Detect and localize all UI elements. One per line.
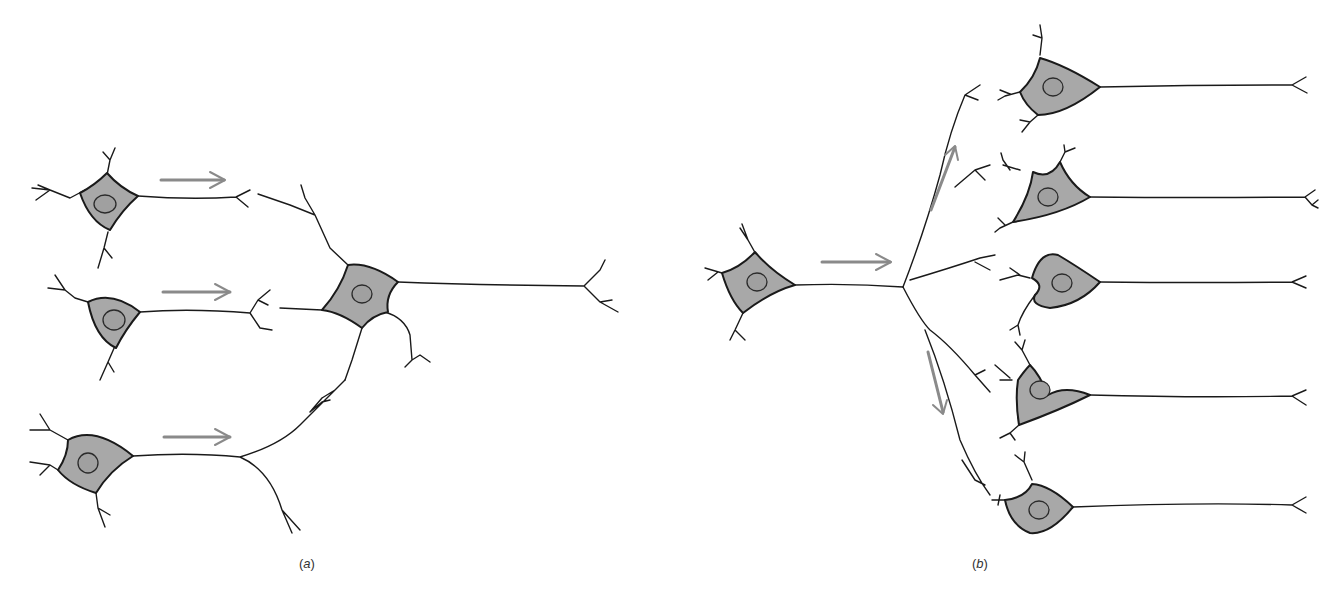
label-letter: a xyxy=(303,556,310,571)
panel-a-convergence xyxy=(30,148,618,533)
neural-circuit-diagram xyxy=(0,0,1330,603)
arrow-icon xyxy=(931,146,958,210)
neuron-icon xyxy=(258,185,618,380)
neuron-icon xyxy=(32,148,250,268)
label-close-paren: ) xyxy=(984,556,988,571)
neuron-icon xyxy=(30,380,345,533)
arrow-icon xyxy=(164,429,230,445)
panel-b-divergence xyxy=(705,25,1318,533)
neuron-icon xyxy=(705,85,995,495)
neuron-icon xyxy=(998,25,1307,132)
panel-b-label: (b) xyxy=(972,556,988,571)
arrow-icon xyxy=(161,172,225,188)
neuron-icon xyxy=(995,340,1306,440)
neuron-icon xyxy=(48,275,272,380)
label-close-paren: ) xyxy=(311,556,315,571)
arrow-icon xyxy=(822,254,891,270)
arrow-icon xyxy=(163,284,230,300)
neuron-icon xyxy=(1000,254,1306,335)
neuron-icon xyxy=(992,452,1306,533)
neuron-icon xyxy=(995,145,1318,232)
panel-a-label: (a) xyxy=(299,556,315,571)
label-letter: b xyxy=(976,556,983,571)
